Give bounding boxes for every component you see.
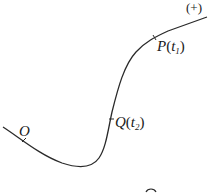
partial-glyph xyxy=(146,189,156,192)
curve-diagram: O Q(t2) P(t1) (+) xyxy=(0,0,213,193)
label-O: O xyxy=(19,124,30,139)
curve-svg xyxy=(0,0,213,193)
orientation-label: (+) xyxy=(186,1,202,14)
label-Q: Q(t2) xyxy=(115,115,145,132)
label-P: P(t1) xyxy=(157,39,185,56)
point-P-letter: P xyxy=(157,38,166,54)
point-O-letter: O xyxy=(19,123,30,139)
point-Q-letter: Q xyxy=(115,114,126,130)
